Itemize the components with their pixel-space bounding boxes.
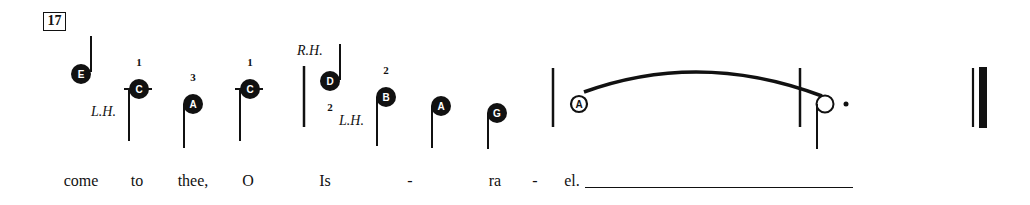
tie-arc [584, 72, 822, 96]
lyric-syllable: thee, [178, 172, 209, 190]
right-hand-marking: R.H. [297, 43, 323, 59]
fingering-number: 2 [383, 64, 389, 76]
lyric-syllable: O [242, 172, 254, 190]
note-c: C [235, 79, 263, 141]
final-barline [973, 67, 987, 128]
svg-text:A: A [189, 99, 196, 110]
fingering-number: 1 [136, 56, 142, 68]
note-a: A [431, 96, 451, 148]
fingering-number: 1 [247, 56, 253, 68]
note-c: C [124, 79, 152, 141]
svg-text:B: B [382, 92, 389, 103]
lyric-hyphen: - [407, 172, 412, 190]
lyric-extender-line [585, 187, 853, 188]
augmentation-dot [844, 102, 849, 107]
note-e: E [71, 36, 91, 84]
lyric-syllable: to [131, 172, 143, 190]
note-b: B [376, 87, 396, 146]
fingering-number: 2 [327, 101, 333, 113]
fingering-number: 3 [190, 71, 196, 83]
svg-text:C: C [246, 84, 253, 95]
lyric-syllable: ra [489, 172, 501, 190]
note-a-whole: A [571, 96, 587, 112]
svg-text:D: D [326, 76, 333, 87]
svg-text:E: E [78, 69, 85, 80]
left-hand-marking: L.H. [91, 104, 116, 120]
lyric-syllable: el. [564, 172, 580, 190]
notation-layer: E C A C [0, 0, 1030, 205]
svg-text:C: C [135, 84, 142, 95]
lyric-hyphen: - [532, 172, 537, 190]
note-a: A [183, 94, 203, 148]
note-g: G [487, 103, 507, 149]
svg-text:A: A [575, 99, 582, 110]
music-score: 17 E C A [0, 0, 1030, 205]
left-hand-marking: L.H. [339, 113, 364, 129]
lyric-syllable: Is [319, 172, 331, 190]
lyric-syllable: come [64, 172, 99, 190]
note-d: D [320, 44, 340, 91]
svg-text:A: A [437, 101, 444, 112]
svg-text:G: G [493, 108, 501, 119]
dotted-half-note [817, 96, 849, 150]
